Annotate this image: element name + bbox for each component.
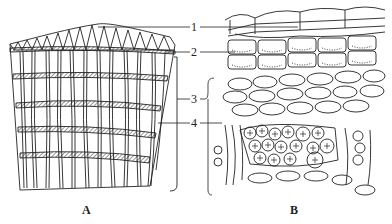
label-3: 3: [190, 93, 198, 105]
phellem-cells: [228, 36, 376, 69]
panel-b-caption: B: [290, 203, 298, 218]
panel-a-drawing: [10, 24, 177, 191]
label-2: 2: [190, 46, 198, 58]
panel-a-caption: A: [82, 203, 91, 218]
crystal-druse-cells: [214, 124, 365, 168]
panel-b-drawing: [214, 7, 385, 195]
parenchyma-cells: [223, 70, 385, 116]
label-4: 4: [190, 117, 198, 129]
label-1: 1: [190, 21, 198, 33]
